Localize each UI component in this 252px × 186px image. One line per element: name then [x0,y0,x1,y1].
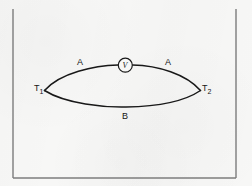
label-conductor-upper-left: A [77,58,83,67]
label-conductor-upper-right: A [165,58,171,67]
label-voltmeter: V [123,62,128,70]
figure-canvas: A A B V T1 T2 [0,0,252,186]
upper-conductor-left-segment [45,65,119,91]
label-junction-right: T2 [202,84,211,95]
label-conductor-lower: B [122,112,128,121]
upper-conductor-right-segment [133,65,201,91]
label-junction-left-subscript: 1 [40,88,44,95]
label-junction-left: T1 [34,84,43,95]
label-junction-right-subscript: 2 [208,88,212,95]
lower-conductor-arc [45,91,201,108]
